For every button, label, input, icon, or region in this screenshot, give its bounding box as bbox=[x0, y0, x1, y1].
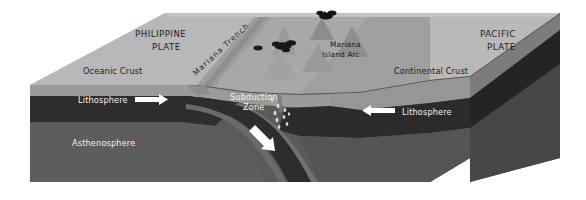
island-arc-label-line1: Mariana bbox=[330, 40, 361, 49]
asthenosphere-label: Asthenosphere bbox=[72, 138, 135, 148]
oceanic-crust-label: Oceanic Crust bbox=[83, 66, 143, 76]
philippine-plate-label-line1: PHILIPPINE bbox=[135, 29, 186, 39]
small-island-spot bbox=[254, 46, 263, 51]
philippine-plate-label-line2: PLATE bbox=[152, 42, 181, 52]
subduction-zone-diagram: PHILIPPINE PLATE PACIFIC PLATE Mariana T… bbox=[0, 0, 586, 200]
lithosphere-label-left: Lithosphere bbox=[78, 95, 128, 105]
pacific-plate-label-line2: PLATE bbox=[487, 42, 516, 52]
subduction-zone-label-line2: Zone bbox=[243, 102, 264, 112]
lithosphere-label-right: Lithosphere bbox=[402, 107, 452, 117]
block-diagram-svg: PHILIPPINE PLATE PACIFIC PLATE Mariana T… bbox=[0, 0, 586, 200]
pacific-plate-label-line1: PACIFIC bbox=[480, 29, 516, 39]
continental-crust-label: Continental Crust bbox=[394, 66, 469, 76]
subduction-zone-label-line1: Subduction bbox=[230, 92, 278, 102]
back-edge-highlight bbox=[165, 13, 560, 17]
island-arc-label-line2: Island Arc bbox=[322, 50, 360, 59]
